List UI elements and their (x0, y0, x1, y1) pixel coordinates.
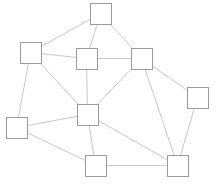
edge-layer (17, 14, 198, 166)
node-D (132, 49, 153, 70)
node-I (168, 156, 189, 177)
node-A (91, 4, 112, 25)
node-G (7, 118, 28, 139)
node-H (86, 156, 107, 177)
node-C (77, 49, 98, 70)
graph-svg (0, 0, 219, 186)
edge-D-I (142, 59, 178, 166)
graph-diagram (0, 0, 219, 186)
node-B (21, 43, 42, 64)
node-E (188, 88, 209, 109)
node-layer (7, 4, 209, 177)
edge-G-H (17, 128, 96, 166)
node-F (78, 105, 99, 126)
